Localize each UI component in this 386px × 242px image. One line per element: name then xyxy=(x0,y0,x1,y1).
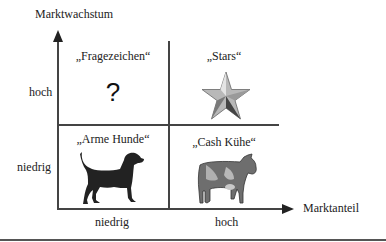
y-axis-arrow-icon xyxy=(53,30,63,42)
y-tick-niedrig: niedrig xyxy=(17,160,51,175)
y-axis-label: Marktwachstum xyxy=(35,7,113,22)
x-tick-niedrig: niedrig xyxy=(95,215,129,230)
quadrant-title-fragezeichen: „Fragezeichen“ xyxy=(58,49,168,64)
y-tick-hoch: hoch xyxy=(29,85,52,100)
dog-icon xyxy=(78,150,148,206)
quadrant-title-arme-hunde: „Arme Hunde“ xyxy=(58,132,168,147)
quadrant-title-cash-kuehe: „Cash Kühe“ xyxy=(169,135,279,150)
bottom-rule xyxy=(0,239,386,241)
cow-icon xyxy=(196,153,258,206)
horizontal-divider xyxy=(57,124,279,126)
star-icon xyxy=(200,72,252,122)
x-tick-hoch: hoch xyxy=(215,215,238,230)
x-axis-line xyxy=(57,208,285,210)
x-axis-arrow-icon xyxy=(282,204,294,214)
x-axis-label: Marktanteil xyxy=(303,201,359,216)
question-mark-icon: ? xyxy=(58,77,168,108)
quadrant-title-stars: „Stars“ xyxy=(169,49,279,64)
